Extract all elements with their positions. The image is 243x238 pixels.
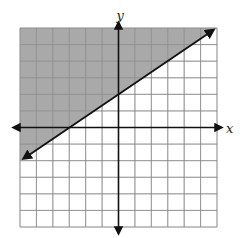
x-axis-label: x xyxy=(226,121,234,136)
inequality-graph: x y xyxy=(0,0,243,238)
y-axis-label: y xyxy=(116,8,125,23)
